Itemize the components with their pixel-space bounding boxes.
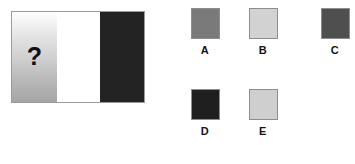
answer-swatch-b[interactable] [249, 8, 278, 39]
answer-option-a[interactable]: A [183, 8, 227, 56]
question-mark-glyph: ? [27, 44, 42, 69]
answer-label-a: A [183, 44, 227, 56]
answer-option-d[interactable]: D [183, 89, 227, 137]
answer-label-e: E [241, 125, 285, 137]
answer-swatch-c[interactable] [321, 8, 350, 39]
answer-swatch-d[interactable] [191, 89, 220, 120]
answer-label-c: C [313, 44, 355, 56]
answer-swatch-e[interactable] [249, 89, 278, 120]
stimulus-panel: ? [11, 11, 145, 103]
stimulus-band-question: ? [12, 12, 57, 102]
answer-label-d: D [183, 125, 227, 137]
answer-options-area: A B C D E [178, 0, 355, 164]
answer-swatch-a[interactable] [191, 8, 220, 39]
stimulus-band-white [57, 12, 100, 102]
answer-option-e[interactable]: E [241, 89, 285, 137]
answer-label-b: B [241, 44, 285, 56]
stimulus-band-dark [100, 12, 144, 102]
answer-option-b[interactable]: B [241, 8, 285, 56]
answer-option-c[interactable]: C [313, 8, 355, 56]
